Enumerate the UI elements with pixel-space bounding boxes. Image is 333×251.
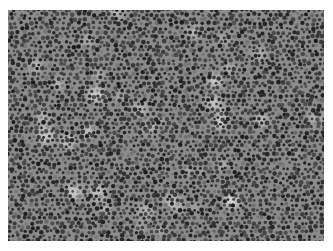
micrograph-image <box>8 10 324 241</box>
tissue-texture <box>8 10 324 241</box>
